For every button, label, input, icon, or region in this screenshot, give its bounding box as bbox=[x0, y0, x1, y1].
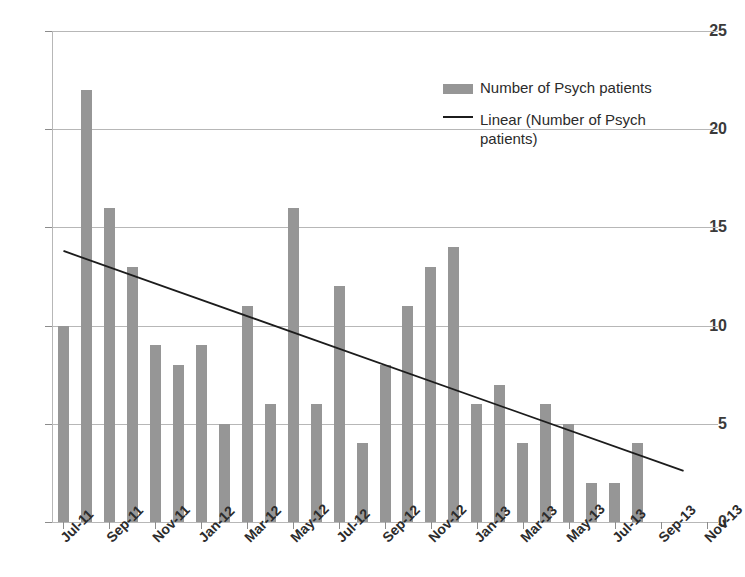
bar bbox=[380, 365, 391, 522]
bar bbox=[471, 404, 482, 522]
bar bbox=[173, 365, 184, 522]
bar bbox=[58, 326, 69, 522]
gridline bbox=[52, 326, 718, 327]
bar bbox=[104, 208, 115, 522]
bar bbox=[563, 424, 574, 522]
y-axis-tick-mark bbox=[45, 326, 52, 327]
bar bbox=[196, 345, 207, 522]
bar bbox=[402, 306, 413, 522]
bar bbox=[448, 247, 459, 522]
y-axis-tick-mark bbox=[45, 227, 52, 228]
bar bbox=[242, 306, 253, 522]
legend-label-trendline: Linear (Number of Psych patients) bbox=[480, 110, 680, 148]
gridline bbox=[52, 31, 718, 32]
gridline bbox=[52, 227, 718, 228]
y-axis-tick-mark bbox=[45, 31, 52, 32]
legend-label-bars: Number of Psych patients bbox=[480, 78, 652, 97]
y-axis-tick-mark bbox=[45, 129, 52, 130]
bar bbox=[609, 483, 620, 522]
legend-item-trendline: Linear (Number of Psych patients) bbox=[443, 110, 683, 148]
bar bbox=[81, 90, 92, 522]
bar bbox=[425, 267, 436, 522]
legend-item-bars: Number of Psych patients bbox=[443, 78, 683, 97]
bar bbox=[517, 443, 528, 522]
bar bbox=[288, 208, 299, 522]
bar bbox=[150, 345, 161, 522]
y-axis-tick-mark bbox=[45, 424, 52, 425]
bar bbox=[334, 286, 345, 522]
bar bbox=[127, 267, 138, 522]
bar-swatch-icon bbox=[443, 84, 473, 94]
y-axis-tick-mark bbox=[45, 522, 52, 523]
bar bbox=[494, 385, 505, 522]
chart-legend: Number of Psych patients Linear (Number … bbox=[443, 78, 683, 162]
line-swatch-icon bbox=[443, 116, 473, 118]
